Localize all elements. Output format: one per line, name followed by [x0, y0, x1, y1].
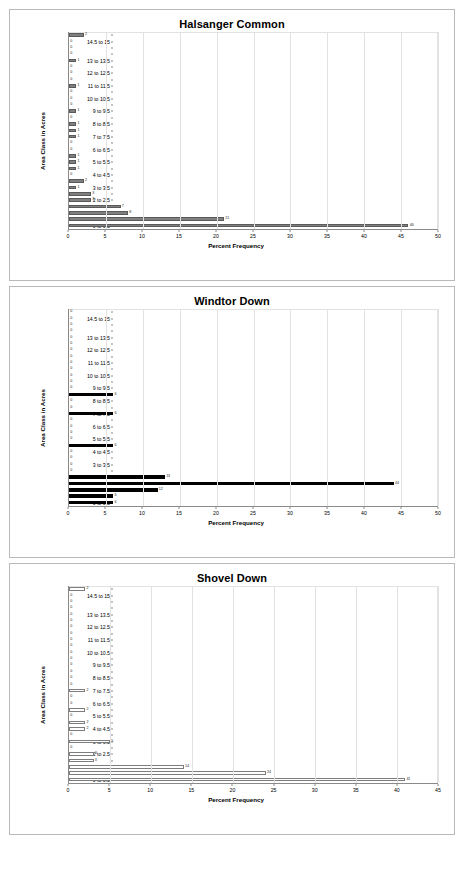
bar-value-label: 0: [70, 695, 72, 699]
y-axis-title: Area Class in Acres: [39, 389, 46, 447]
x-tick-mark: [105, 507, 106, 509]
bar-row: 0: [69, 606, 438, 610]
x-tick-mark: [253, 507, 254, 509]
bar-row: 0: [69, 746, 438, 750]
x-tick-mark: [253, 230, 254, 232]
bar-value-label: 0: [70, 317, 72, 321]
bar-value-label: 1: [78, 109, 80, 113]
x-tick-label: 25: [250, 233, 256, 239]
grid-line: [397, 586, 398, 783]
x-tick-mark: [150, 784, 151, 786]
bar-value-label: 0: [70, 733, 72, 737]
bar: [69, 727, 85, 731]
grid-line: [438, 32, 439, 229]
grid-line: [327, 32, 328, 229]
grid-line: [180, 32, 181, 229]
bar-value-label: 1: [78, 84, 80, 88]
bar-value-label: 0: [70, 714, 72, 718]
grid-line: [364, 32, 365, 229]
bar: [69, 759, 94, 763]
bar-value-label: 0: [70, 463, 72, 467]
bar-value-label: 0: [70, 374, 72, 378]
x-tick-label: 40: [394, 787, 400, 793]
bar-value-label: 6: [114, 393, 116, 397]
x-tick-label: 40: [361, 233, 367, 239]
grid-line: [438, 586, 439, 783]
x-tick-label: 0: [67, 233, 70, 239]
bar-value-label: 0: [70, 116, 72, 120]
bar-value-label: 0: [70, 450, 72, 454]
bar-value-label: 0: [70, 97, 72, 101]
bar-value-label: 0: [70, 173, 72, 177]
bar-row: 2: [69, 587, 438, 591]
bar-value-label: 1: [78, 186, 80, 190]
bar-value-label: 0: [70, 310, 72, 314]
bar: [69, 778, 405, 782]
bar-value-label: 44: [395, 482, 399, 486]
x-tick-mark: [314, 784, 315, 786]
chart-title: Shovel Down: [10, 572, 454, 584]
bar-value-label: 21: [225, 217, 229, 221]
x-tick-mark: [438, 230, 439, 232]
bar-value-label: 0: [70, 657, 72, 661]
bar-value-label: 7: [122, 205, 124, 209]
bar-row: 0: [69, 657, 438, 661]
grid-line: [192, 586, 193, 783]
bar-row: 0: [69, 683, 438, 687]
bar: [69, 179, 84, 183]
x-tick-label: 50: [435, 510, 441, 516]
plot-area: 0 to 0.51 to 1.52 to 2.53 to 3.54 to 4.5…: [68, 586, 438, 784]
bar-value-label: 8: [129, 211, 131, 215]
x-tick-mark: [105, 230, 106, 232]
bar-value-label: 0: [70, 141, 72, 145]
bar-value-label: 0: [70, 431, 72, 435]
x-tick-label: 5: [104, 510, 107, 516]
bar-row: 0: [69, 625, 438, 629]
bar-row: 24: [69, 771, 438, 775]
x-tick-mark: [364, 230, 365, 232]
x-axis: 05101520253035404550: [68, 507, 438, 519]
x-tick-mark: [142, 230, 143, 232]
y-axis-title: Area Class in Acres: [39, 666, 46, 724]
x-tick-label: 45: [398, 510, 404, 516]
bar-value-label: 0: [70, 367, 72, 371]
bar-value-label: 0: [70, 746, 72, 750]
chart-title: Halsanger Common: [10, 18, 454, 30]
bar-value-label: 6: [114, 412, 116, 416]
x-tick-mark: [401, 507, 402, 509]
x-tick-mark: [109, 784, 110, 786]
bar-value-label: 0: [70, 606, 72, 610]
bar-row: 14: [69, 765, 438, 769]
bar-value-label: 2: [87, 689, 89, 693]
bar-value-label: 1: [78, 167, 80, 171]
x-tick-label: 30: [312, 787, 318, 793]
x-tick-label: 20: [213, 510, 219, 516]
grid-line: [106, 32, 107, 229]
grid-line: [290, 309, 291, 506]
x-tick-label: 40: [361, 510, 367, 516]
bar-value-label: 3: [95, 752, 97, 756]
bar-value-label: 6: [114, 494, 116, 498]
grid-line: [233, 586, 234, 783]
x-tick-label: 30: [287, 233, 293, 239]
x-tick-mark: [355, 784, 356, 786]
bar-value-label: 24: [267, 771, 271, 775]
bar-row: 0: [69, 702, 438, 706]
bar-value-label: 0: [70, 619, 72, 623]
bar: [69, 154, 76, 158]
grid-line: [401, 32, 402, 229]
bar-value-label: 0: [70, 632, 72, 636]
bar-value-label: 12: [159, 488, 163, 492]
bar: [69, 211, 128, 215]
x-axis: 051015202530354045: [68, 784, 438, 796]
bar: [69, 205, 121, 209]
x-tick-label: 10: [139, 233, 145, 239]
bar-value-label: 0: [70, 613, 72, 617]
x-tick-label: 35: [324, 233, 330, 239]
bar: [69, 84, 76, 88]
bar: [69, 708, 85, 712]
bar-row: 0: [69, 670, 438, 674]
bar: [69, 488, 158, 492]
bar: [69, 33, 84, 37]
bar-value-label: 0: [70, 103, 72, 107]
